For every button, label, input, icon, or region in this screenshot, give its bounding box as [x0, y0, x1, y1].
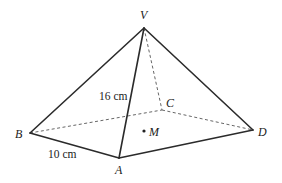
label-b: B [15, 127, 23, 141]
hidden-edge-cd [162, 110, 253, 130]
hidden-edge-bc [30, 110, 162, 133]
measure-ab: 10 cm [48, 148, 76, 160]
label-m: M [148, 125, 160, 139]
measure-va: 16 cm [99, 90, 127, 102]
label-c: C [166, 96, 175, 110]
label-v: V [140, 8, 149, 22]
edge-ad [119, 130, 253, 158]
pyramid-diagram: V B A C D M 16 cm 10 cm [0, 0, 282, 183]
label-a: A [114, 163, 123, 177]
center-point-m [142, 129, 145, 132]
edge-vd [144, 28, 253, 130]
hidden-edge-vc [144, 28, 162, 110]
pyramid-svg: V B A C D M 16 cm 10 cm [0, 0, 282, 183]
label-d: D [257, 125, 267, 139]
